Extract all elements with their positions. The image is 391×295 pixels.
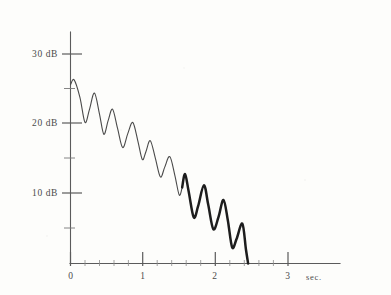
chart-canvas — [0, 0, 391, 295]
y-tick-label-20db: 20 dB — [14, 118, 58, 128]
x-tick-label-1: 1 — [133, 271, 153, 281]
decay-curve-dark-segment — [182, 174, 248, 263]
y-tick-label-30db: 30 dB — [14, 49, 58, 59]
x-tick-label-2: 2 — [205, 271, 225, 281]
decay-curve-chart: 30 dB 20 dB 10 dB 0 1 2 3 sec. — [0, 0, 391, 295]
y-axis-major-ticks — [62, 54, 82, 193]
x-tick-label-0: 0 — [61, 271, 81, 281]
x-tick-label-3: 3 — [278, 271, 298, 281]
y-tick-label-10db: 10 dB — [14, 188, 58, 198]
decay-curve-light-segment — [71, 79, 183, 195]
y-axis-minor-ticks — [64, 89, 75, 229]
x-axis-unit-label: sec. — [306, 272, 322, 282]
